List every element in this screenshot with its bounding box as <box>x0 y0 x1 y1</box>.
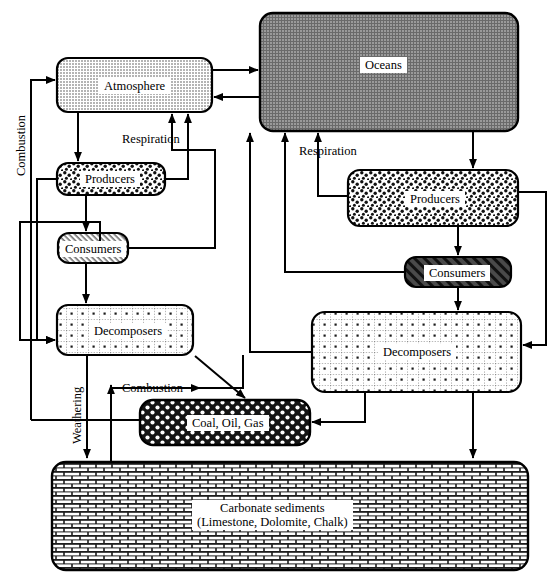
edge-label-respiration-ocean: Respiration <box>299 144 357 158</box>
edge-label-weathering: Weathering <box>70 387 84 444</box>
flow-land-producers-respiration <box>165 114 188 179</box>
label-ocean-consumers: Consumers <box>424 265 490 281</box>
flow-combustion-to-atmosphere <box>31 80 55 420</box>
label-land-producers: Producers <box>80 171 140 187</box>
label-fossil-fuels: Coal, Oil, Gas <box>187 415 269 431</box>
edge-label-combustion-left: Combustion <box>14 115 28 176</box>
carbon-cycle-diagram: Atmosphere Oceans Producers Consumers De… <box>0 0 554 582</box>
flow-land-decomposers-to-producers <box>37 179 57 340</box>
edge-label-combustion-lower: Combustion <box>122 381 183 395</box>
label-ocean-producers: Producers <box>405 191 465 207</box>
label-carbonate: Carbonate sediments (Limestone, Dolomite… <box>192 500 353 530</box>
label-oceans: Oceans <box>360 57 407 73</box>
label-atmosphere: Atmosphere <box>99 78 170 94</box>
flow-ocean-producers-respiration <box>318 133 348 196</box>
flow-combustion-label-line <box>200 355 243 388</box>
edge-label-respiration-land: Respiration <box>122 132 180 146</box>
label-land-decomposers: Decomposers <box>89 323 167 339</box>
label-land-consumers: Consumers <box>60 241 126 257</box>
label-ocean-decomposers: Decomposers <box>378 344 456 360</box>
flow-ocean-producers-to-decomposers-right <box>518 192 546 345</box>
flow-land-decomposers-to-fossil <box>195 356 245 398</box>
flow-ocean-decomposers-to-oceans <box>250 133 312 352</box>
diagram-canvas <box>0 0 554 582</box>
flow-ocean-decomposers-to-fossil <box>312 392 365 422</box>
